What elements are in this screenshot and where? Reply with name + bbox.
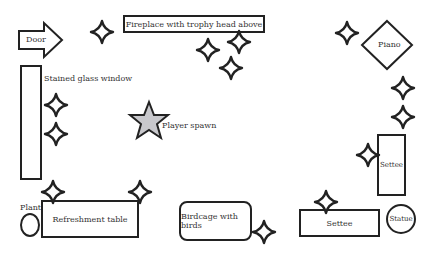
sparkle-icon	[129, 181, 151, 203]
sparkle-icon	[357, 144, 379, 166]
sparkle-icon	[392, 77, 414, 99]
sparkle-icon	[253, 221, 275, 243]
sparkle-icon	[392, 106, 414, 128]
sparkle-icon	[197, 39, 219, 61]
sparkle-icon	[42, 181, 64, 203]
sparkle-markers	[0, 0, 435, 256]
sparkle-icon	[45, 123, 67, 145]
sparkle-icon	[228, 31, 250, 53]
sparkle-icon	[220, 57, 242, 79]
sparkle-icon	[91, 21, 113, 43]
sparkle-icon	[45, 94, 67, 116]
sparkle-icon	[336, 22, 358, 44]
sparkle-icon	[315, 191, 337, 213]
